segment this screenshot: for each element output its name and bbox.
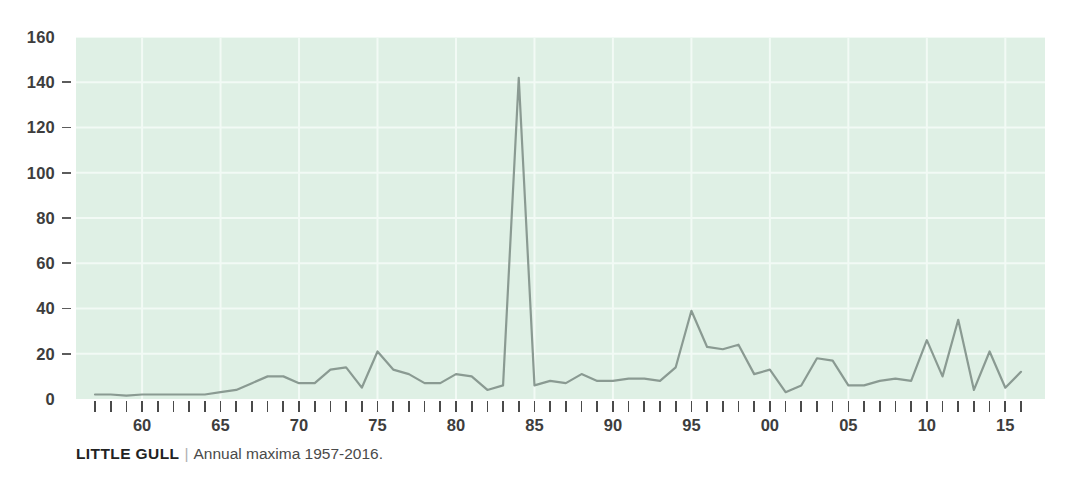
caption-separator: | [179,445,193,462]
x-axis-tick-mark [188,401,190,412]
gridlines [76,37,1045,399]
y-axis-tick-mark [62,127,71,129]
caption-description: Annual maxima 1957-2016. [193,445,383,462]
x-axis-tick-mark [973,401,975,412]
x-axis-tick-mark [926,401,928,412]
y-axis-tick-label: 80 [36,210,55,227]
x-axis-tick-mark [94,401,96,412]
x-axis-tick-label: 75 [368,417,386,434]
little-gull-annual-maxima-figure: 020406080100120140160 606570758085909500… [0,0,1077,491]
x-axis-tick-mark [895,401,897,412]
x-axis-tick-mark [785,401,787,412]
y-axis-tick-mark [62,262,71,264]
x-axis-tick-label: 10 [918,417,936,434]
y-axis-tick-label: 140 [27,74,55,91]
x-axis-tick-mark [314,401,316,412]
y-axis-tick-label: 20 [36,346,55,363]
y-axis-tick-label: 100 [27,165,55,182]
x-axis-tick-mark [455,401,457,412]
x-axis-tick-mark [126,401,128,412]
y-axis-tick-mark [62,217,71,219]
x-axis: 606570758085909500051015 [0,399,1077,449]
x-axis-tick-mark [957,401,959,412]
x-axis-tick-mark [706,401,708,412]
x-axis-tick-mark [110,401,112,412]
y-axis-tick-mark [62,353,71,355]
x-axis-tick-mark [643,401,645,412]
x-axis-tick-mark [691,401,693,412]
x-axis-tick-mark [565,401,567,412]
line-chart-svg [76,37,1045,399]
x-axis-tick-label: 70 [290,417,308,434]
bottom-edge-strip [0,486,1077,491]
y-axis-tick-label: 160 [27,29,55,46]
x-axis-tick-mark [1020,401,1022,412]
x-axis-tick-mark [534,401,536,412]
x-axis-tick-mark [596,401,598,412]
y-axis-tick-mark [62,172,71,174]
x-axis-tick-mark [848,401,850,412]
x-axis-tick-mark [235,401,237,412]
x-axis-tick-mark [471,401,473,412]
x-axis-tick-label: 15 [996,417,1014,434]
x-axis-tick-mark [345,401,347,412]
y-axis-tick-mark [62,81,71,83]
x-axis-tick-mark [1004,401,1006,412]
x-axis-tick-mark [800,401,802,412]
data-series-line [95,78,1021,396]
x-axis-tick-mark [220,401,222,412]
x-axis-tick-mark [628,401,630,412]
x-axis-tick-mark [408,401,410,412]
y-axis-tick-mark [62,36,71,38]
x-axis-tick-label: 00 [761,417,779,434]
x-axis-tick-mark [487,401,489,412]
x-axis-tick-mark [675,401,677,412]
x-axis-tick-mark [989,401,991,412]
x-axis-tick-label: 80 [447,417,465,434]
x-axis-tick-mark [549,401,551,412]
x-axis-tick-label: 85 [525,417,543,434]
x-axis-tick-mark [816,401,818,412]
x-axis-tick-label: 95 [682,417,700,434]
x-axis-tick-mark [502,401,504,412]
x-axis-tick-mark [581,401,583,412]
x-axis-tick-mark [392,401,394,412]
x-axis-tick-mark [377,401,379,412]
x-axis-tick-mark [298,401,300,412]
x-axis-tick-label: 65 [211,417,229,434]
y-axis-tick-label: 40 [36,300,55,317]
x-axis-tick-mark [942,401,944,412]
x-axis-tick-label: 60 [133,417,151,434]
x-axis-tick-mark [722,401,724,412]
x-axis-tick-mark [738,401,740,412]
x-axis-tick-mark [157,401,159,412]
x-axis-tick-mark [251,401,253,412]
x-axis-tick-mark [204,401,206,412]
y-axis-tick-mark [62,308,71,310]
x-axis-tick-mark [659,401,661,412]
y-axis-tick-label: 60 [36,255,55,272]
x-axis-tick-mark [879,401,881,412]
x-axis-tick-mark [612,401,614,412]
x-axis-tick-mark [863,401,865,412]
x-axis-tick-mark [141,401,143,412]
x-axis-tick-mark [518,401,520,412]
x-axis-tick-mark [910,401,912,412]
x-axis-tick-mark [330,401,332,412]
figure-caption: LITTLE GULL|Annual maxima 1957-2016. [76,445,383,464]
x-axis-tick-mark [282,401,284,412]
y-axis-tick-label: 120 [27,119,55,136]
plot-area [76,37,1045,399]
x-axis-tick-mark [769,401,771,412]
x-axis-tick-mark [361,401,363,412]
x-axis-tick-mark [753,401,755,412]
x-axis-tick-mark [173,401,175,412]
x-axis-tick-mark [832,401,834,412]
caption-species-name: LITTLE GULL [76,445,179,462]
x-axis-tick-mark [439,401,441,412]
x-axis-tick-mark [267,401,269,412]
x-axis-tick-label: 90 [604,417,622,434]
x-axis-tick-mark [424,401,426,412]
x-axis-tick-label: 05 [839,417,857,434]
